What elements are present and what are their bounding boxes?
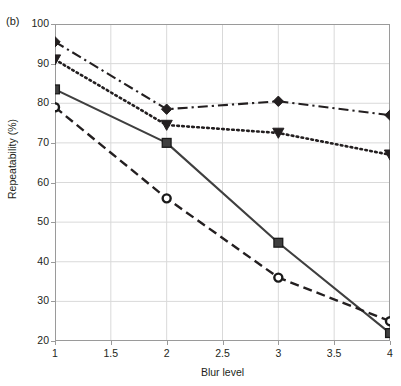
y-tick-mark [51,183,55,184]
y-tick-label: 90 [19,57,49,69]
square-marker [55,85,59,94]
circle-marker [163,194,171,202]
x-tick-mark [278,341,279,345]
y-tick-label: 100 [19,17,49,29]
x-tick-mark [334,341,335,345]
x-tick-label: 2.5 [203,347,243,359]
plot-canvas [55,24,390,341]
y-tick-mark [51,262,55,263]
y-tick-mark [51,143,55,144]
y-axis-title: Repeatability (%) [6,104,18,214]
y-tick-label: 80 [19,96,49,108]
y-tick-mark [51,103,55,104]
circle-marker [274,274,282,282]
x-tick-label: 4 [370,347,401,359]
y-tick-label: 50 [19,215,49,227]
y-tick-label: 40 [19,255,49,267]
chart-figure: (b) Repeatability (%) Blur level 1009080… [0,0,401,386]
x-tick-mark [111,341,112,345]
x-tick-mark [223,341,224,345]
x-tick-mark [390,341,391,345]
circle-marker [386,317,390,325]
x-tick-mark [55,341,56,345]
square-marker [162,138,171,147]
y-tick-mark [51,24,55,25]
y-tick-label: 20 [19,334,49,346]
y-tick-mark [51,222,55,223]
circle-marker [55,103,59,111]
plot-area [55,24,390,341]
diamond-marker [273,96,283,106]
square-marker [274,238,283,247]
x-tick-label: 3.5 [314,347,354,359]
panel-label: (b) [6,15,19,27]
triangle-down-marker [161,120,172,130]
diamond-marker [385,110,390,120]
x-tick-mark [167,341,168,345]
x-tick-label: 3 [258,347,298,359]
x-axis-title: Blur level [55,366,390,378]
x-tick-label: 1 [35,347,75,359]
y-tick-label: 60 [19,176,49,188]
x-tick-label: 2 [147,347,187,359]
diamond-marker [161,104,171,114]
y-tick-label: 30 [19,294,49,306]
y-tick-label: 70 [19,136,49,148]
x-tick-label: 1.5 [91,347,131,359]
y-tick-mark [51,64,55,65]
y-tick-mark [51,301,55,302]
square-marker [386,329,390,338]
